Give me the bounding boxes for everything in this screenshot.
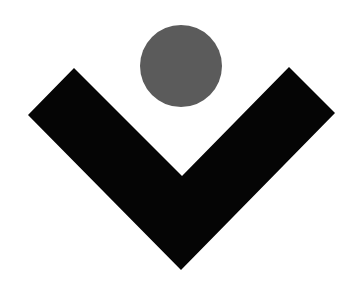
logo-mark [0,0,355,287]
logo-canvas [0,0,355,287]
circle-dot [140,25,222,107]
